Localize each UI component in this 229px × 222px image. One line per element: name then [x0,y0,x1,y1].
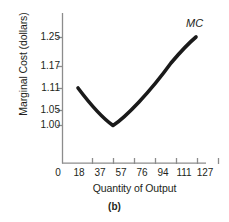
figure-caption: (b) [0,201,229,212]
y-axis-title: Marginal Cost (dollars) [17,0,29,134]
x-tick-label-127: 127 [192,167,218,178]
marginal-cost-chart-figure: Marginal Cost (dollars) 1.25 1.17 1.11 1… [0,0,229,222]
y-tick-label-100: 1.00 [32,120,60,130]
mc-series-label: MC [186,17,203,29]
x-axis-title: Quantity of Output [62,182,207,194]
y-axis-tick-labels: 1.25 1.17 1.11 1.05 1.00 [30,0,60,222]
mc-curve [78,37,196,126]
y-tick-label-117: 1.17 [32,61,60,71]
y-tick-label-125: 1.25 [32,32,60,42]
y-tick-label-105: 1.05 [32,105,60,115]
y-tick-label-111: 1.11 [32,83,60,93]
